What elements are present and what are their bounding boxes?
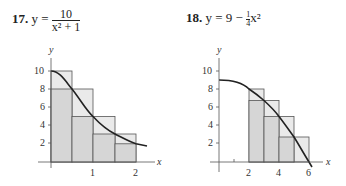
svg-text:x: x bbox=[156, 156, 162, 167]
svg-text:y: y bbox=[48, 44, 54, 55]
svg-text:4: 4 bbox=[40, 119, 45, 130]
svg-text:6: 6 bbox=[208, 101, 213, 112]
svg-text:4: 4 bbox=[208, 119, 213, 130]
chart-17: y x 1086 42 12 bbox=[34, 44, 162, 178]
svg-text:2: 2 bbox=[208, 137, 213, 148]
svg-text:x: x bbox=[325, 156, 331, 167]
svg-text:4: 4 bbox=[276, 167, 281, 178]
svg-text:8: 8 bbox=[208, 83, 213, 94]
svg-text:10: 10 bbox=[202, 65, 212, 76]
chart-18: y x 1086 42 246 bbox=[202, 44, 331, 178]
svg-text:6: 6 bbox=[40, 101, 45, 112]
svg-text:y: y bbox=[216, 44, 222, 55]
svg-text:2: 2 bbox=[246, 167, 251, 178]
svg-text:2: 2 bbox=[133, 167, 138, 178]
svg-text:2: 2 bbox=[40, 137, 45, 148]
svg-text:10: 10 bbox=[34, 65, 44, 76]
svg-text:1: 1 bbox=[90, 167, 95, 178]
svg-text:6: 6 bbox=[306, 167, 311, 178]
svg-text:8: 8 bbox=[40, 83, 45, 94]
charts: y x 1086 42 12 y x bbox=[0, 0, 346, 186]
